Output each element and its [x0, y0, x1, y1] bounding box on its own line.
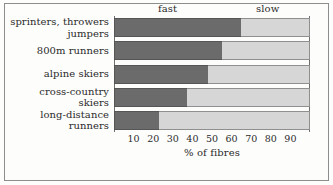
- bar-row: [114, 88, 310, 107]
- chart-figure: fast slow sprinters, throwers jumpers 80…: [0, 0, 333, 185]
- bar-segment-slow: [241, 18, 310, 37]
- bar-segment-fast: [114, 65, 208, 84]
- bar-segment-slow: [159, 111, 310, 130]
- x-axis: 102030405060708090: [114, 132, 310, 148]
- category-label: alpine skiers: [44, 68, 109, 80]
- x-tick-label: 20: [147, 133, 159, 144]
- x-tick-label: 80: [265, 133, 277, 144]
- category-label: long-distance runners: [40, 109, 109, 132]
- bar-segment-slow: [187, 88, 310, 107]
- bar-segment-fast: [114, 18, 241, 37]
- x-tick-label: 30: [167, 133, 179, 144]
- category-label: sprinters, throwers jumpers: [10, 16, 109, 39]
- legend-item-slow: slow: [256, 3, 279, 14]
- bar-segment-slow: [208, 65, 310, 84]
- bar-row: [114, 111, 310, 130]
- x-tick-label: 90: [284, 133, 296, 144]
- x-tick-label: 60: [226, 133, 238, 144]
- category-label: 800m runners: [37, 45, 109, 57]
- category-axis-labels: sprinters, throwers jumpers 800m runners…: [0, 16, 112, 132]
- x-tick-label: 40: [186, 133, 198, 144]
- x-tick-label: 70: [245, 133, 257, 144]
- bar-segment-slow: [222, 41, 310, 60]
- x-tick-label: 10: [128, 133, 140, 144]
- bar-segment-fast: [114, 41, 222, 60]
- bar-segment-fast: [114, 111, 159, 130]
- bar-row: [114, 65, 310, 84]
- bar-segment-fast: [114, 88, 187, 107]
- bar-row: [114, 18, 310, 37]
- legend-item-fast: fast: [158, 3, 177, 14]
- x-axis-title: % of fibres: [114, 147, 310, 158]
- category-label: cross-country skiers: [39, 86, 109, 109]
- bar-row: [114, 41, 310, 60]
- chart-legend: fast slow: [114, 3, 310, 16]
- x-tick-label: 50: [206, 133, 218, 144]
- plot-area: [114, 16, 310, 132]
